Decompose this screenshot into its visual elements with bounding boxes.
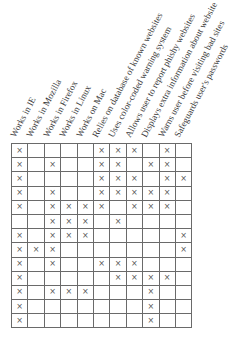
empty-cell [28,271,44,285]
check-mark-cell: × [12,257,28,271]
check-mark-cell: × [61,200,77,214]
check-mark-cell: × [110,271,126,285]
check-mark-cell: × [12,243,28,257]
check-mark-cell: × [110,158,126,172]
check-mark-cell: × [28,243,44,257]
check-mark-cell: × [143,271,159,285]
empty-cell [28,285,44,299]
empty-cell [28,172,44,186]
check-mark-cell: × [126,271,142,285]
empty-cell [28,144,44,158]
check-mark-cell: × [44,257,60,271]
check-mark-cell: × [61,229,77,243]
empty-cell [44,172,60,186]
check-mark-cell: × [159,200,175,214]
empty-cell [77,300,93,314]
empty-cell [93,214,109,228]
check-mark-cell: × [126,186,142,200]
empty-cell [61,257,77,271]
check-mark-cell: × [77,214,93,228]
check-mark-cell: × [159,271,175,285]
empty-cell [126,285,142,299]
empty-cell [93,271,109,285]
empty-cell [77,257,93,271]
check-mark-cell: × [143,285,159,299]
check-mark-cell: × [12,314,28,328]
check-mark-cell: × [126,257,142,271]
check-mark-cell: × [12,144,28,158]
check-mark-cell: × [44,158,60,172]
check-mark-cell: × [12,200,28,214]
empty-cell [28,214,44,228]
check-mark-cell: × [44,229,60,243]
empty-cell [143,243,159,257]
empty-cell [175,257,191,271]
check-mark-cell: × [126,200,142,214]
table-row: ×× [12,300,192,314]
check-mark-cell: × [12,172,28,186]
empty-cell [77,172,93,186]
empty-cell [28,300,44,314]
empty-cell [44,271,60,285]
check-mark-cell: × [44,243,60,257]
empty-cell [175,158,191,172]
empty-cell [143,257,159,271]
table-row: ×××××× [12,158,192,172]
table-row: ×××××× [12,172,192,186]
empty-cell [110,314,126,328]
check-mark-cell: × [110,144,126,158]
table-row: ××××××× [12,186,192,200]
check-mark-cell: × [110,172,126,186]
empty-cell [175,285,191,299]
empty-cell [61,243,77,257]
empty-cell [159,314,175,328]
check-mark-cell: × [93,144,109,158]
empty-cell [143,144,159,158]
empty-cell [28,186,44,200]
check-mark-cell: × [61,214,77,228]
check-mark-cell: × [159,172,175,186]
empty-cell [175,300,191,314]
feature-matrix-table: ××××××××××××××××××××××××××××××××××××××××… [11,143,192,328]
check-mark-cell: × [175,229,191,243]
check-mark-cell: × [126,144,142,158]
empty-cell [28,200,44,214]
check-mark-cell: × [143,158,159,172]
empty-cell [93,229,109,243]
table-row: ×××××××× [12,200,192,214]
check-mark-cell: × [44,214,60,228]
check-mark-cell: × [110,214,126,228]
empty-cell [175,186,191,200]
empty-cell [77,186,93,200]
empty-cell [28,229,44,243]
check-mark-cell: × [93,186,109,200]
empty-cell [143,214,159,228]
check-mark-cell: × [12,186,28,200]
empty-cell [143,229,159,243]
check-mark-cell: × [159,186,175,200]
check-mark-cell: × [44,186,60,200]
empty-cell [61,314,77,328]
empty-cell [110,243,126,257]
empty-cell [126,229,142,243]
empty-cell [175,214,191,228]
empty-cell [143,172,159,186]
check-mark-cell: × [110,257,126,271]
column-headers: Works in IEWorks in MozillaWorks in Fire… [11,0,247,143]
table-row: ×× [12,314,192,328]
empty-cell [61,186,77,200]
empty-cell [126,314,142,328]
check-mark-cell: × [77,285,93,299]
empty-cell [93,314,109,328]
empty-cell [110,229,126,243]
empty-cell [110,200,126,214]
empty-cell [159,243,175,257]
table-row: ×××× [12,243,192,257]
empty-cell [159,300,175,314]
check-mark-cell: × [12,229,28,243]
empty-cell [61,271,77,285]
check-mark-cell: × [12,158,28,172]
empty-cell [77,158,93,172]
table-row: ××××× [12,229,192,243]
empty-cell [126,158,142,172]
